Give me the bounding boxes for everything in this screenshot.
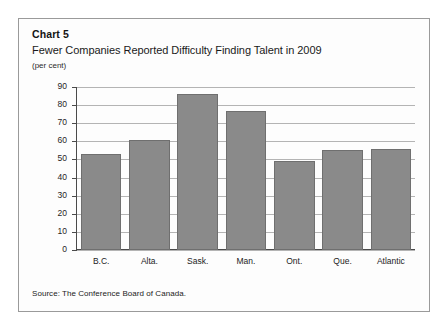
x-axis-label: Ont.: [270, 256, 318, 267]
bar-group: Man.: [222, 87, 270, 250]
y-tick-label: 10: [58, 226, 67, 237]
y-tick-mark: [72, 250, 77, 251]
chart-number: Chart 5: [32, 28, 412, 41]
bar-alta[interactable]: [129, 140, 170, 250]
plot-region: 9080706050403020100 B.C.Alta.Sask.Man.On…: [32, 81, 417, 271]
y-tick-label: 90: [58, 81, 67, 92]
bar-group: Que.: [318, 87, 366, 250]
y-tick-label: 30: [58, 190, 67, 201]
y-tick-label: 40: [58, 172, 67, 183]
x-axis-label: Que.: [318, 256, 366, 267]
gridline: [77, 250, 415, 251]
y-tick-label: 60: [58, 135, 67, 146]
bar-group: Ont.: [270, 87, 318, 250]
bar-group: Alta.: [125, 87, 173, 250]
bar-group: Atlantic: [367, 87, 415, 250]
bar-atlantic[interactable]: [371, 149, 412, 250]
bar-sask[interactable]: [177, 94, 218, 250]
source-note: Source: The Conference Board of Canada.: [32, 288, 186, 299]
bar-group: B.C.: [77, 87, 125, 250]
y-tick-label: 80: [58, 99, 67, 110]
x-axis-label: Atlantic: [367, 256, 415, 267]
y-tick-label: 70: [58, 117, 67, 128]
page-title: Fewer Companies Reported Difficulty Find…: [32, 43, 412, 58]
x-axis-label: Man.: [222, 256, 270, 267]
y-tick-label: 0: [62, 244, 67, 255]
figure-frame: Chart 5 Fewer Companies Reported Difficu…: [18, 18, 430, 312]
bar-que[interactable]: [322, 150, 363, 250]
chart-units-note: (per cent): [32, 60, 412, 71]
y-tick-label: 50: [58, 153, 67, 164]
bar-man[interactable]: [226, 111, 267, 250]
bars-group: B.C.Alta.Sask.Man.Ont.Que.Atlantic: [77, 87, 415, 250]
x-axis-label: Alta.: [125, 256, 173, 267]
x-axis-label: B.C.: [77, 256, 125, 267]
bar-ont[interactable]: [274, 161, 315, 250]
y-tick-label: 20: [58, 208, 67, 219]
x-axis-label: Sask.: [174, 256, 222, 267]
bar-group: Sask.: [174, 87, 222, 250]
chart-header: Chart 5 Fewer Companies Reported Difficu…: [32, 28, 412, 71]
bar-b-c[interactable]: [81, 154, 122, 250]
